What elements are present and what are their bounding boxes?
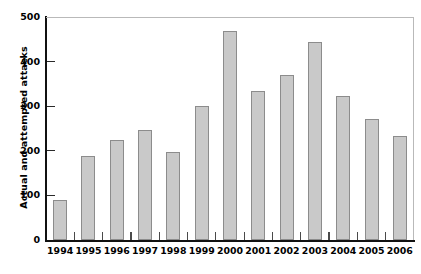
bar — [166, 152, 180, 240]
x-axis-tick-label: 2006 — [386, 246, 414, 255]
y-axis-tick-label: 200 — [8, 146, 40, 156]
bar — [280, 75, 294, 240]
bar — [81, 156, 95, 240]
x-axis-tick — [187, 232, 188, 240]
x-axis-tick — [159, 232, 160, 240]
y-axis-tick-label: 500 — [8, 12, 40, 22]
bar — [195, 106, 209, 240]
x-axis-tick-label: 2004 — [329, 246, 357, 255]
x-axis-tick-label: 1999 — [188, 246, 216, 255]
x-axis-tick — [328, 232, 329, 240]
x-axis-tick-label: 1997 — [131, 246, 159, 255]
bar — [53, 200, 67, 240]
x-axis-labels: 1994199519961997199819992000200120022003… — [46, 246, 414, 266]
x-axis-tick — [74, 232, 75, 240]
x-axis-tick-label: 1996 — [103, 246, 131, 255]
bar — [110, 140, 124, 240]
x-axis-tick-label: 2003 — [301, 246, 329, 255]
y-axis-tick-label: 100 — [8, 190, 40, 200]
x-axis-tick-label: 2005 — [357, 246, 385, 255]
y-axis-tick — [47, 106, 55, 107]
x-axis-tick — [357, 232, 358, 240]
bar — [223, 31, 237, 240]
x-axis-tick-label: 2002 — [272, 246, 300, 255]
y-axis-tick-label: 300 — [8, 101, 40, 111]
x-axis-tick — [385, 232, 386, 240]
bars-layer — [46, 17, 414, 240]
x-axis-tick — [102, 232, 103, 240]
x-axis-tick — [300, 232, 301, 240]
x-axis-tick — [272, 232, 273, 240]
x-axis-tick — [130, 232, 131, 240]
x-axis-tick-label: 2000 — [216, 246, 244, 255]
x-axis-tick — [215, 232, 216, 240]
x-axis-tick-label: 1995 — [74, 246, 102, 255]
y-axis-tick-label: 400 — [8, 57, 40, 67]
y-axis-labels: 0100200300400500 — [6, 0, 40, 274]
y-axis-tick — [47, 150, 55, 151]
y-axis-tick-label: 0 — [8, 235, 40, 245]
bar — [336, 96, 350, 240]
bar — [251, 91, 265, 240]
x-axis-tick-label: 2001 — [244, 246, 272, 255]
x-axis-tick-label: 1994 — [46, 246, 74, 255]
bar — [308, 42, 322, 240]
bar — [138, 130, 152, 240]
bar-chart: Actual and attempted attacks 01002003004… — [0, 0, 421, 274]
bar — [393, 136, 407, 240]
x-axis-tick — [244, 232, 245, 240]
bar — [365, 119, 379, 240]
y-axis-tick — [47, 61, 55, 62]
y-axis-tick — [47, 195, 55, 196]
x-axis-tick-label: 1998 — [159, 246, 187, 255]
